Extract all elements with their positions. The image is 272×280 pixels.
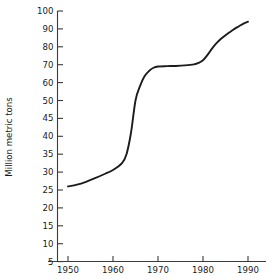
x-axis-tick-labels: 19501960197019801990	[57, 265, 259, 275]
y-tick-label: 60	[43, 78, 54, 88]
y-tick-label: 80	[43, 42, 54, 52]
y-axis-title: Million metric tons	[4, 97, 14, 177]
line-chart: 100908070605045403530252015105 195019601…	[0, 0, 272, 280]
y-tick-label: 30	[43, 167, 54, 177]
y-tick-label: 20	[43, 203, 54, 213]
x-tick-label: 1980	[192, 265, 214, 275]
y-tick-label: 100	[37, 6, 53, 16]
y-tick-label: 50	[43, 96, 54, 106]
y-tick-label: 10	[43, 239, 54, 249]
x-axis-group: 19501960197019801990	[48, 256, 266, 275]
x-axis-ticks	[68, 256, 248, 262]
y-axis-ticks	[58, 11, 64, 262]
chart-container: 100908070605045403530252015105 195019601…	[0, 0, 272, 280]
x-tick-label: 1960	[102, 265, 124, 275]
x-tick-label: 1990	[237, 265, 259, 275]
y-tick-label: 45	[43, 113, 54, 123]
y-axis-tick-labels: 100908070605045403530252015105	[37, 6, 53, 267]
y-tick-label: 70	[43, 60, 54, 70]
y-tick-label: 25	[43, 185, 54, 195]
y-tick-label: 90	[43, 24, 54, 34]
y-axis-group: 100908070605045403530252015105	[37, 6, 63, 267]
y-tick-label: 15	[43, 221, 54, 231]
data-series-line	[68, 22, 248, 187]
y-tick-label: 40	[43, 131, 54, 141]
x-tick-label: 1970	[147, 265, 169, 275]
y-tick-label: 35	[43, 149, 54, 159]
x-tick-label: 1950	[57, 265, 79, 275]
